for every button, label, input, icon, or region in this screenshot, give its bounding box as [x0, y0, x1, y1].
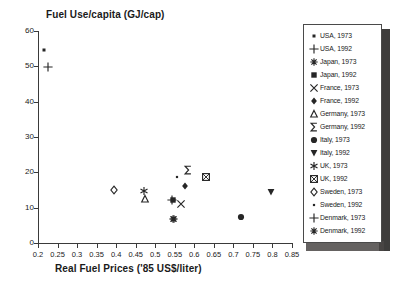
legend-item-germany-1973[interactable]: Germany, 1973 — [308, 107, 382, 120]
y-tick-label: 60 — [12, 27, 34, 35]
y-tick-mark — [34, 31, 39, 32]
y-tick-label: 40 — [12, 98, 34, 106]
x-tick-label: 0.85 — [280, 251, 304, 259]
y-tick-mark — [34, 66, 39, 67]
legend-item-sweden-1992[interactable]: Sweden, 1992 — [308, 199, 382, 212]
x-tick-mark — [97, 243, 98, 248]
y-tick-mark — [34, 208, 39, 209]
legend-marker-boxed-x-icon — [308, 173, 320, 185]
legend-item-denmark-1973[interactable]: Denmark, 1973 — [308, 212, 382, 225]
x-tick-mark — [233, 243, 234, 248]
legend-marker-sigma-icon — [308, 121, 320, 133]
legend-marker-filled-diamond-icon — [308, 95, 320, 107]
legend-item-uk-1992[interactable]: UK, 1992 — [308, 173, 382, 186]
y-tick-label: 30 — [12, 133, 34, 141]
scatter-plot-panel: Fuel Use/capita (GJ/cap) 0102030405060 0… — [0, 0, 300, 286]
legend-marker-filled-square-icon — [308, 69, 320, 81]
y-tick-mark — [34, 172, 39, 173]
legend-item-japan-1992[interactable]: Japan, 1992 — [308, 68, 382, 81]
legend-item-label: Denmark, 1973 — [320, 214, 365, 222]
legend-item-label: Sweden, 1973 — [320, 188, 362, 196]
legend-item-denmark-1992[interactable]: Denmark, 1992 — [308, 225, 382, 238]
legend-item-japan-1973[interactable]: Japan, 1973 — [308, 55, 382, 68]
x-tick-mark — [272, 243, 273, 248]
legend-item-label: France, 1992 — [320, 97, 359, 105]
x-tick-mark — [38, 243, 39, 248]
legend-item-label: Italy, 1973 — [320, 136, 350, 144]
legend-marker-plus-icon — [308, 212, 320, 224]
legend-marker-open-triangle-up-icon — [308, 108, 320, 120]
legend-item-italy-1992[interactable]: Italy, 1992 — [308, 146, 382, 159]
x-tick-mark — [58, 243, 59, 248]
y-tick-label-wrap: 20 — [0, 168, 34, 176]
chart-title: Fuel Use/capita (GJ/cap) — [46, 9, 165, 20]
legend-marker-open-diamond-icon — [308, 186, 320, 198]
y-tick-label-wrap: 40 — [0, 98, 34, 106]
legend-marker-small-filled-square-icon — [308, 30, 320, 42]
legend-item-label: Sweden, 1992 — [320, 201, 362, 209]
chart-legend: USA, 1973USA, 1992Japan, 1973Japan, 1992… — [303, 24, 382, 243]
legend-marker-dot-icon — [308, 199, 320, 211]
legend-item-label: Japan, 1992 — [320, 71, 356, 79]
x-tick-mark — [214, 243, 215, 248]
y-tick-label-wrap: 10 — [0, 204, 34, 212]
y-tick-label: 10 — [12, 204, 34, 212]
legend-item-label: France, 1973 — [320, 84, 359, 92]
x-tick-mark — [175, 243, 176, 248]
y-tick-label-wrap: 0 — [0, 239, 34, 247]
x-tick-mark — [116, 243, 117, 248]
legend-item-label: USA, 1992 — [320, 45, 352, 53]
y-tick-label-wrap: 30 — [0, 133, 34, 141]
legend-item-label: UK, 1992 — [320, 175, 348, 183]
figure-root: Fuel Use/capita (GJ/cap) 0102030405060 0… — [0, 0, 394, 286]
legend-marker-cross-x-icon — [308, 82, 320, 94]
x-tick-mark — [253, 243, 254, 248]
y-tick-label: 0 — [12, 239, 34, 247]
x-tick-mark — [292, 243, 293, 248]
legend-marker-plus-icon — [308, 43, 320, 55]
legend-item-label: Denmark, 1992 — [320, 227, 365, 235]
x-tick-mark — [194, 243, 195, 248]
legend-item-label: Germany, 1992 — [320, 123, 365, 131]
legend-item-label: Italy, 1992 — [320, 149, 350, 157]
legend-item-label: UK, 1973 — [320, 162, 348, 170]
legend-item-label: Japan, 1973 — [320, 58, 356, 66]
legend-marker-asterisk-icon — [308, 225, 320, 237]
legend-item-usa-1973[interactable]: USA, 1973 — [308, 29, 382, 42]
y-tick-mark — [34, 137, 39, 138]
y-tick-label-wrap: 50 — [0, 62, 34, 70]
y-tick-label: 50 — [12, 62, 34, 70]
x-tick-mark — [155, 243, 156, 248]
legend-item-france-1973[interactable]: France, 1973 — [308, 81, 382, 94]
y-tick-label: 20 — [12, 168, 34, 176]
x-axis-title: Real Fuel Prices ('85 US$/liter) — [55, 263, 202, 274]
legend-item-sweden-1973[interactable]: Sweden, 1973 — [308, 186, 382, 199]
legend-item-france-1992[interactable]: France, 1992 — [308, 94, 382, 107]
legend-marker-asterisk-icon — [308, 56, 320, 68]
legend-item-uk-1973[interactable]: UK, 1973 — [308, 160, 382, 173]
legend-item-germany-1992[interactable]: Germany, 1992 — [308, 120, 382, 133]
legend-item-label: USA, 1973 — [320, 32, 352, 40]
legend-marker-star-icon — [308, 160, 320, 172]
legend-item-usa-1992[interactable]: USA, 1992 — [308, 42, 382, 55]
x-tick-mark — [136, 243, 137, 248]
legend-item-italy-1973[interactable]: Italy, 1973 — [308, 133, 382, 146]
y-tick-label-wrap: 60 — [0, 27, 34, 35]
legend-item-label: Germany, 1973 — [320, 110, 365, 118]
legend-marker-filled-triangle-down-icon — [308, 147, 320, 159]
y-tick-mark — [34, 102, 39, 103]
legend-marker-filled-circle-icon — [308, 134, 320, 146]
x-tick-mark — [77, 243, 78, 248]
